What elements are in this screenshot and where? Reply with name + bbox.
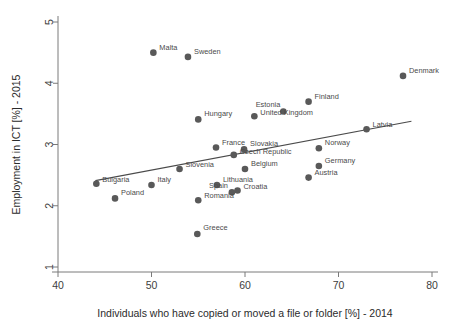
data-point: Austria	[305, 168, 338, 181]
data-point: Poland	[112, 188, 144, 201]
point-marker	[148, 182, 155, 189]
point-label: United Kingdom	[260, 108, 313, 117]
point-label: Romania	[204, 191, 234, 200]
point-marker	[234, 187, 241, 194]
x-tick-label: 80	[426, 279, 438, 291]
data-point: Hungary	[195, 109, 233, 122]
point-marker	[316, 145, 323, 152]
point-label: Germany	[325, 156, 356, 165]
data-point: Italy	[148, 175, 171, 188]
scatter-chart: 12345 4050607080 MaltaSwedenDenmarkFinla…	[0, 0, 453, 332]
point-marker	[242, 166, 249, 173]
data-point: Bulgaria	[93, 175, 130, 187]
data-point: Malta	[150, 43, 178, 56]
data-point: Slovenia	[176, 160, 215, 172]
point-marker	[93, 180, 100, 187]
point-marker	[195, 197, 202, 204]
x-tick-label: 40	[52, 279, 64, 291]
point-label: Slovenia	[186, 160, 215, 169]
data-point: Romania	[195, 191, 235, 203]
data-point: Finland	[305, 92, 339, 105]
point-marker	[230, 152, 237, 159]
data-point: Belgium	[242, 159, 278, 172]
y-tick-label: 4	[43, 80, 55, 86]
point-label: Hungary	[204, 109, 232, 118]
point-label: Belgium	[251, 159, 278, 168]
data-point: Denmark	[400, 66, 440, 79]
x-tick-label: 70	[333, 279, 345, 291]
point-marker	[176, 166, 183, 173]
data-point: Croatia	[234, 182, 268, 193]
y-tick-label: 2	[43, 203, 55, 209]
point-label: Czech Republic	[240, 147, 292, 156]
point-label: Sweden	[194, 47, 221, 56]
point-marker	[213, 144, 220, 151]
x-tick-label: 60	[239, 279, 251, 291]
y-tick-label: 1	[43, 264, 55, 270]
point-label: Norway	[325, 138, 350, 147]
point-label: Croatia	[244, 182, 269, 191]
point-marker	[112, 195, 119, 202]
x-axis-title: Individuals who have copied or moved a f…	[97, 307, 392, 319]
point-marker	[251, 113, 258, 120]
data-point: Latvia	[363, 120, 393, 132]
point-label: Malta	[159, 43, 178, 52]
y-tick-label: 5	[43, 19, 55, 25]
x-axis-ticks: 4050607080	[52, 272, 438, 291]
data-point: Norway	[316, 138, 351, 151]
point-label: Finland	[315, 92, 339, 101]
point-label: France	[222, 138, 245, 147]
y-tick-label: 3	[43, 141, 55, 147]
y-axis-title: Employment in ICT [%] - 2015	[10, 74, 22, 214]
point-marker	[400, 73, 407, 80]
point-label: Austria	[315, 168, 339, 177]
point-marker	[185, 54, 192, 61]
y-axis-ticks: 12345	[43, 19, 58, 270]
point-label: Poland	[121, 188, 144, 197]
data-points: MaltaSwedenDenmarkFinlandEstoniaUnited K…	[93, 43, 439, 238]
point-marker	[150, 49, 157, 56]
point-marker	[305, 174, 312, 181]
point-marker	[194, 231, 201, 238]
data-point: Sweden	[185, 47, 221, 60]
data-point: Greece	[194, 223, 228, 237]
point-marker	[195, 116, 202, 123]
point-label: Bulgaria	[102, 175, 130, 184]
point-label: Italy	[158, 175, 172, 184]
x-tick-label: 50	[146, 279, 158, 291]
point-label: Greece	[203, 223, 227, 232]
point-marker	[305, 98, 312, 105]
point-marker	[363, 126, 370, 133]
point-label: Latvia	[373, 120, 394, 129]
data-point: United Kingdom	[251, 108, 313, 119]
data-point: Czech Republic	[230, 147, 291, 158]
plot-area: 12345 4050607080 MaltaSwedenDenmarkFinla…	[0, 0, 453, 332]
point-label: Denmark	[409, 66, 439, 75]
point-label: Spain	[209, 181, 228, 190]
